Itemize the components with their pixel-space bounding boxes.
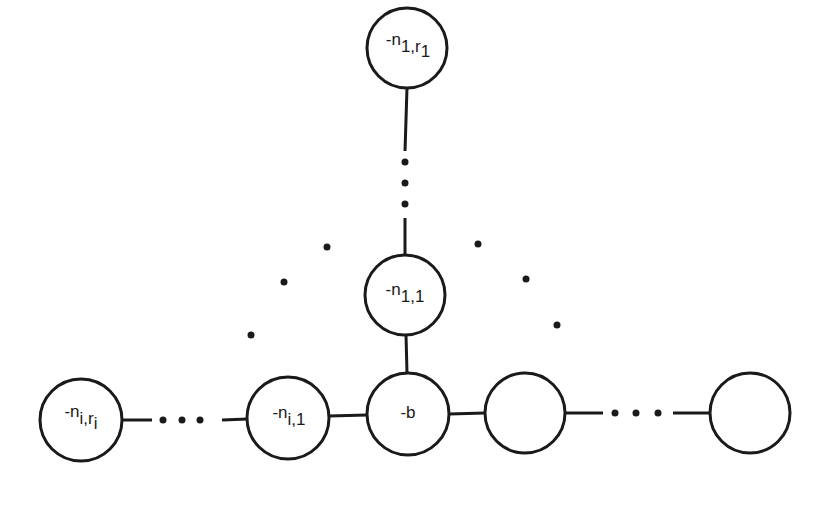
edge-b-to-right1 bbox=[449, 413, 485, 414]
edge-dots-to-ni1 bbox=[222, 419, 248, 420]
label-sub: i,r bbox=[80, 409, 94, 428]
plumbing-diagram bbox=[0, 0, 822, 508]
node-right-2 bbox=[710, 373, 790, 453]
label-n1-r1: -n1,r1 bbox=[386, 30, 430, 62]
label-sub: 1,r bbox=[401, 37, 421, 56]
edge-n11-to-b bbox=[406, 335, 407, 373]
edge-top-to-dots bbox=[405, 88, 407, 151]
label-ni-1: -ni,1 bbox=[272, 403, 305, 430]
label-base: -n bbox=[272, 403, 287, 422]
label-subsub: i bbox=[94, 414, 98, 433]
label-base: -n bbox=[386, 280, 401, 299]
edge-ni1-to-b bbox=[329, 415, 367, 416]
label-base: -n bbox=[64, 402, 79, 421]
label-subsub: 1 bbox=[421, 42, 430, 61]
label-base: -n bbox=[386, 30, 401, 49]
label-ni-ri: -ni,ri bbox=[64, 402, 97, 434]
label-sub: 1,1 bbox=[401, 287, 425, 306]
label-b: -b bbox=[400, 403, 415, 423]
label-n1-1: -n1,1 bbox=[386, 280, 425, 307]
label-sub: i,1 bbox=[288, 410, 306, 429]
node-right-1 bbox=[485, 373, 565, 453]
